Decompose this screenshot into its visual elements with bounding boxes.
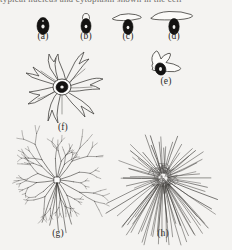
panel-e-drawing <box>152 51 181 77</box>
panel-label-f: (f) <box>48 122 78 132</box>
panel-label-d: (d) <box>159 31 189 41</box>
panel-label-h: (h) <box>148 228 178 238</box>
panel-g-drawing <box>13 125 110 232</box>
panel-label-e: (e) <box>151 76 181 86</box>
panel-label-a: (a) <box>28 31 58 41</box>
panel-f-drawing <box>26 52 103 123</box>
panel-label-c: (c) <box>113 31 143 41</box>
panel-label-b: (b) <box>71 31 101 41</box>
figure-root: typical nucleus and cytoplasm shown in t… <box>0 0 232 250</box>
panel-label-g: (g) <box>43 228 73 238</box>
